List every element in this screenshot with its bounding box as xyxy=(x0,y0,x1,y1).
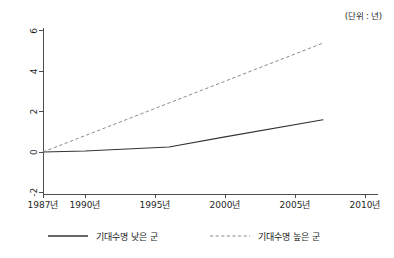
x-tick-label: 2010년 xyxy=(350,200,381,210)
legend-label: 기대수명 높은 군 xyxy=(258,232,320,242)
x-tick-label: 2000년 xyxy=(210,200,241,210)
chart-figure: (단위 : 년) -20246 1987년1990년1995년2000년2005… xyxy=(0,0,394,258)
tick-marks xyxy=(39,31,365,198)
x-tick-label: 2005년 xyxy=(280,200,311,210)
y-tick-label: 0 xyxy=(29,149,39,155)
data-series xyxy=(43,43,323,152)
line-chart-canvas: -20246 1987년1990년1995년2000년2005년2010년 기대… xyxy=(0,0,394,258)
series-line-low xyxy=(43,120,323,152)
y-tick-label: 4 xyxy=(29,68,39,74)
y-axis-tick-labels: -20246 xyxy=(29,28,39,197)
y-tick-label: 6 xyxy=(29,28,39,34)
y-tick-label: 2 xyxy=(29,109,39,115)
x-tick-label: 1995년 xyxy=(140,200,171,210)
x-tick-label: 1990년 xyxy=(70,200,101,210)
legend-label: 기대수명 낮은 군 xyxy=(96,232,158,242)
chart-legend: 기대수명 낮은 군기대수명 높은 군 xyxy=(48,232,320,242)
axes xyxy=(43,28,378,194)
y-tick-label: -2 xyxy=(29,188,39,197)
x-tick-label: 1987년 xyxy=(28,200,59,210)
x-axis-tick-labels: 1987년1990년1995년2000년2005년2010년 xyxy=(28,200,381,210)
series-line-high xyxy=(43,43,323,152)
